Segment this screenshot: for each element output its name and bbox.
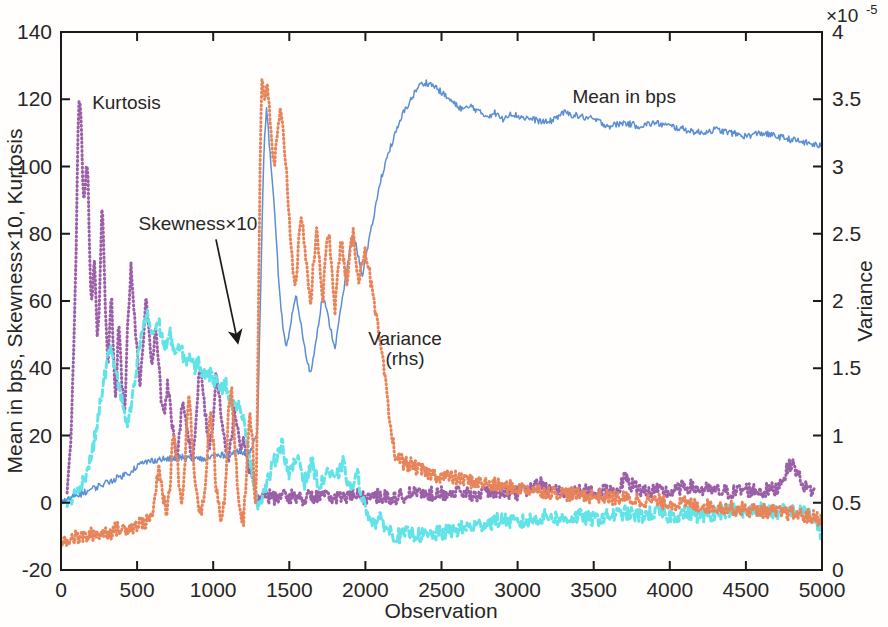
x-tick-label: 4500: [723, 578, 770, 601]
x-tick-label: 0: [55, 578, 67, 601]
x-tick-label: 1500: [266, 578, 313, 601]
y-axis-label: Mean in bps, Skewness×10, Kurtosis: [3, 129, 26, 474]
y2-tick-label: 2: [832, 289, 844, 312]
secondary-y-axis-label: Variance: [853, 260, 876, 341]
annotation-mean: Mean in bps: [572, 86, 676, 107]
x-tick-label: 5000: [799, 578, 846, 601]
y-tick-label: 120: [17, 87, 52, 110]
y-tick-label: 20: [29, 424, 52, 447]
x-tick-label: 3000: [494, 578, 541, 601]
y2-tick-label: 0.5: [832, 491, 861, 514]
y2-tick-label: 3.5: [832, 87, 861, 110]
annotation-variance: Variance: [368, 328, 442, 349]
x-axis-label: Observation: [384, 599, 497, 622]
y2-tick-label: 3: [832, 155, 844, 178]
secondary-axis-exponent: ×10 -5: [826, 2, 878, 26]
annotation-kurtosis: Kurtosis: [92, 92, 161, 113]
x-tick-label: 1000: [190, 578, 237, 601]
y-tick-label: 80: [29, 222, 52, 245]
x-tick-label: 2000: [342, 578, 389, 601]
chart-svg: 0500100015002000250030003500400045005000…: [0, 0, 888, 627]
figure-container: 0500100015002000250030003500400045005000…: [0, 0, 888, 627]
x-tick-label: 4000: [646, 578, 693, 601]
exponent-base: ×10: [826, 5, 858, 26]
y2-tick-label: 1: [832, 424, 844, 447]
y2-tick-label: 1.5: [832, 356, 861, 379]
y-tick-label: 60: [29, 289, 52, 312]
annotation-skewness: Skewness×10: [139, 213, 258, 234]
x-tick-label: 3500: [570, 578, 617, 601]
y-tick-label: -20: [22, 558, 52, 581]
x-tick-label: 2500: [418, 578, 465, 601]
exponent-power: -5: [866, 2, 878, 17]
y-tick-label: 0: [40, 491, 52, 514]
y2-tick-label: 0: [832, 558, 844, 581]
y2-tick-label: 2.5: [832, 222, 861, 245]
y-tick-label: 140: [17, 20, 52, 43]
annotation-variance: (rhs): [385, 348, 424, 369]
y-tick-label: 40: [29, 356, 52, 379]
x-tick-label: 500: [120, 578, 155, 601]
